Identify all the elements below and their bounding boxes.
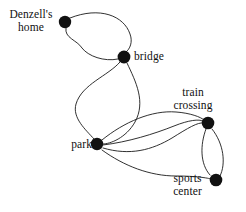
edge-train-sports-1 [202,129,210,175]
edge-park-train-2 [103,120,203,145]
edge-park-train-3 [103,123,203,152]
node-label-sports-center: sportscenter [163,172,212,197]
node-label-bridge: bridge [134,50,184,63]
sports-label-line2: center [173,185,202,197]
vertex-bridge[interactable] [118,51,131,64]
graph-diagram-canvas: Denzell'shome bridge park traincrossing … [0,0,246,212]
park-label-line1: park [71,138,92,150]
edge-denzell-bridge-1 [70,13,131,52]
edge-bridge-park-2 [103,63,140,144]
train-label-line2: crossing [173,99,212,111]
node-label-denzell-home: Denzell'shome [2,8,60,33]
node-label-train-crossing: traincrossing [160,86,226,111]
bridge-label-line1: bridge [134,50,164,62]
edge-park-train-1 [102,112,204,140]
train-label-line1: train [182,86,204,98]
edge-bridge-park-1 [75,62,120,139]
vertex-train[interactable] [202,117,215,130]
vertex-denzell[interactable] [59,16,71,28]
edge-train-sports-2 [212,129,223,176]
node-label-park: park [58,138,92,151]
denzell-label-line1: Denzell's [9,8,52,20]
edge-denzell-bridge-2 [66,28,118,60]
sports-label-line1: sports [173,172,201,184]
denzell-label-line2: home [18,21,44,33]
vertex-park[interactable] [91,138,103,150]
